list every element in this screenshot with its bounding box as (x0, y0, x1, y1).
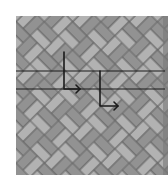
herringbone-diagram (0, 0, 168, 187)
brick-pattern (16, 16, 168, 175)
edge-strip (163, 16, 168, 175)
